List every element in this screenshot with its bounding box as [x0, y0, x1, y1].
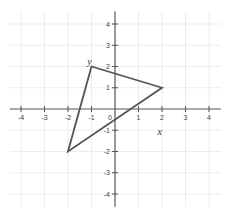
- x-tick-label: 1: [137, 114, 141, 121]
- y-tick-label: 1: [106, 84, 110, 91]
- x-tick-label: 0: [108, 114, 112, 121]
- y-tick-label: -4: [104, 191, 110, 198]
- y-tick-label: -3: [104, 169, 110, 176]
- x-tick-label: -2: [65, 114, 71, 121]
- y-tick-label: 3: [106, 42, 110, 49]
- x-tick-label: -3: [41, 114, 47, 121]
- x-tick-label: 3: [184, 114, 188, 121]
- vertex-label-x: x: [156, 126, 162, 137]
- y-tick-label: -2: [104, 148, 110, 155]
- coordinate-plane: -4-3-2-101234-4-3-2-11234 y x: [0, 0, 230, 216]
- axes: [10, 11, 221, 206]
- y-tick-label: 2: [106, 63, 110, 70]
- x-tick-label: 2: [160, 114, 164, 121]
- y-tick-label: -1: [104, 127, 110, 134]
- x-tick-label: 4: [207, 114, 211, 121]
- x-tick-label: -1: [88, 114, 94, 121]
- x-tick-label: -4: [18, 114, 24, 121]
- y-tick-label: 4: [106, 21, 110, 28]
- vertex-label-y: y: [86, 56, 92, 67]
